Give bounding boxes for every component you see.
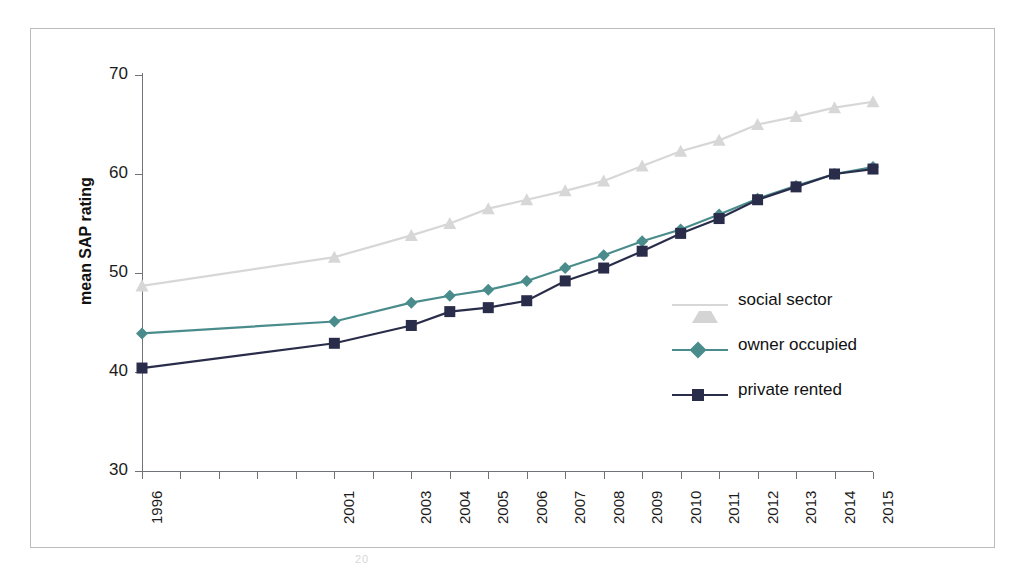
data-point-marker	[136, 327, 148, 339]
series-owner-occupied	[136, 161, 879, 339]
series-social-sector	[136, 95, 880, 291]
chart-figure: mean SAP rating 3040506070 1996200120032…	[0, 0, 1021, 573]
data-point-marker	[714, 213, 725, 224]
data-point-marker	[637, 246, 648, 257]
data-point-marker	[713, 134, 726, 146]
data-point-marker	[560, 275, 571, 286]
data-point-marker	[444, 306, 455, 317]
legend-marker-diamond-icon	[672, 343, 728, 357]
scan-artifact-text: 20	[355, 553, 369, 565]
data-point-marker	[598, 249, 610, 261]
data-point-marker	[406, 320, 417, 331]
data-point-marker	[752, 194, 763, 205]
data-point-marker	[482, 284, 494, 296]
legend-marker-triangle-icon	[672, 298, 728, 312]
data-point-marker	[521, 295, 532, 306]
data-point-marker	[329, 338, 340, 349]
data-point-marker	[559, 262, 571, 274]
data-point-marker	[675, 228, 686, 239]
series-layer	[0, 0, 1021, 573]
legend-label: social sector	[738, 290, 832, 310]
legend-label: private rented	[738, 380, 842, 400]
data-point-marker	[328, 316, 340, 328]
legend-label: owner occupied	[738, 335, 857, 355]
data-point-marker	[597, 174, 610, 186]
data-point-marker	[444, 290, 456, 302]
legend-marker-square-icon	[672, 388, 728, 402]
data-point-marker	[598, 263, 609, 274]
data-point-marker	[829, 169, 840, 180]
data-point-marker	[483, 302, 494, 313]
data-point-marker	[868, 164, 879, 175]
data-point-marker	[521, 275, 533, 287]
data-point-marker	[636, 160, 649, 172]
data-point-marker	[636, 235, 648, 247]
data-point-marker	[867, 95, 880, 107]
data-point-marker	[443, 217, 456, 229]
data-point-marker	[137, 363, 148, 374]
data-point-marker	[791, 181, 802, 192]
plot-area: mean SAP rating 3040506070 1996200120032…	[0, 0, 1021, 573]
data-point-marker	[405, 297, 417, 309]
